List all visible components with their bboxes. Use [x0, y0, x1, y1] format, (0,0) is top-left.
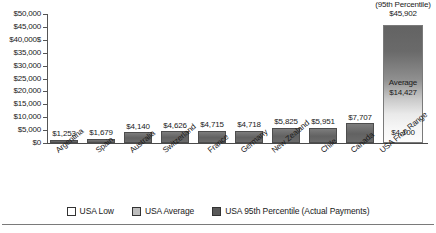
- legend-item-usa-low: USA Low: [67, 207, 114, 216]
- y-tick-label: $25,000: [13, 75, 41, 83]
- bar-chart: $50,000 $45,000 $40,000$ $35,000 $30,000…: [0, 0, 436, 233]
- legend-item-usa-95th-percentile: USA 95th Percentile (Actual Payments): [212, 207, 369, 216]
- bar-argentina: $1,253: [50, 14, 78, 143]
- legend-item-usa-average: USA Average: [132, 207, 194, 216]
- percentile-caption: (95th Percentile): [360, 0, 436, 9]
- y-axis: $50,000 $45,000 $40,000$ $35,000 $30,000…: [0, 0, 47, 150]
- legend-swatch-icon: [132, 207, 141, 216]
- legend-swatch-icon: [212, 207, 221, 216]
- legend-label: USA 95th Percentile (Actual Payments): [225, 207, 369, 216]
- y-tick-label: $45,000: [13, 23, 41, 31]
- legend-bottom-rule: [2, 224, 434, 225]
- x-axis-category-labels: Argentina Spain Australia Switzerland Fr…: [48, 146, 428, 196]
- y-tick-label: $10,000: [13, 113, 41, 121]
- y-tick-label: $40,000$: [9, 36, 41, 44]
- y-tick-label: $50,000: [13, 10, 41, 18]
- y-tick-label: $30,000: [13, 62, 41, 70]
- legend-label: USA Low: [80, 207, 114, 216]
- y-tick-label: $15,000: [13, 100, 41, 108]
- average-value-label: $14,427: [360, 88, 436, 98]
- average-caption: Average: [360, 78, 436, 88]
- plot-area: $1,253 $1,679 $4,140 $4,626 $4,715 $4,71…: [48, 14, 428, 143]
- y-tick-label: $20,000: [13, 87, 41, 95]
- y-tick-label: $0: [33, 139, 42, 147]
- percentile-value-label: $45,902: [360, 9, 436, 19]
- bar-chile: $5,951: [309, 14, 337, 143]
- legend: USA Low USA Average USA 95th Percentile …: [0, 203, 436, 219]
- legend-swatch-icon: [67, 207, 76, 216]
- legend-label: USA Average: [145, 207, 194, 216]
- y-tick-label: $35,000: [13, 49, 41, 57]
